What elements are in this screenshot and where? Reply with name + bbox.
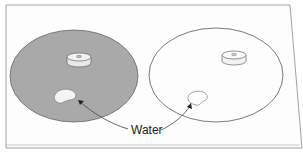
left-hub-icon bbox=[67, 53, 91, 67]
water-label: Water bbox=[131, 123, 163, 137]
left-disc bbox=[10, 30, 138, 122]
right-hub-icon bbox=[222, 51, 246, 65]
